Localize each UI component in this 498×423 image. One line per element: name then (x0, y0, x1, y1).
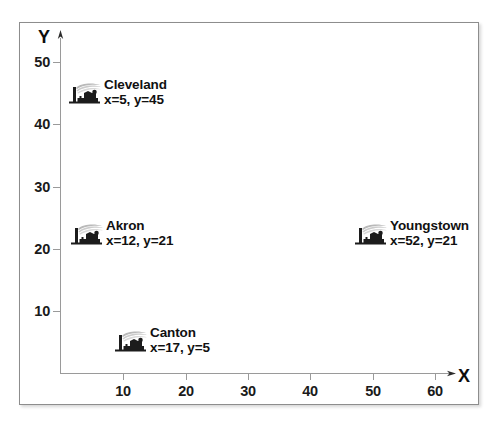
city-coords: x=52, y=21 (390, 233, 469, 248)
x-tick-label-30: 30 (231, 383, 265, 399)
y-axis-line (60, 38, 61, 373)
x-tick-label-20: 20 (169, 383, 203, 399)
x-tick-label-40: 40 (293, 383, 327, 399)
city-coords: x=12, y=21 (106, 233, 173, 248)
y-tick-10 (53, 311, 60, 312)
plot-area: 50 40 30 20 10 10 20 30 40 50 60 Y X (0, 0, 498, 423)
data-point-youngstown[interactable]: Youngstown x=52, y=21 (352, 221, 470, 255)
y-tick-label-20: 20 (20, 241, 50, 257)
x-tick-30 (248, 373, 249, 380)
x-tick-60 (435, 373, 436, 380)
x-tick-label-60: 60 (418, 383, 452, 399)
data-point-label-group: Canton x=17, y=5 (150, 325, 210, 355)
y-tick-20 (53, 249, 60, 250)
x-tick-label-10: 10 (106, 383, 140, 399)
x-axis-arrow-icon (443, 368, 456, 379)
factory-icon (112, 328, 148, 354)
city-name: Youngstown (390, 218, 469, 233)
data-point-label-group: Akron x=12, y=21 (106, 218, 173, 248)
factory-icon (68, 221, 104, 247)
x-tick-10 (123, 373, 124, 380)
x-tick-20 (186, 373, 187, 380)
city-coords: x=17, y=5 (150, 340, 210, 355)
factory-icon (352, 221, 388, 247)
data-point-label-group: Youngstown x=52, y=21 (390, 218, 469, 248)
y-tick-label-50: 50 (20, 54, 50, 70)
y-axis-arrow-icon (55, 30, 66, 42)
factory-icon (66, 80, 102, 106)
y-tick-50 (53, 62, 60, 63)
data-point-akron[interactable]: Akron x=12, y=21 (68, 221, 186, 255)
data-point-label-group: Cleveland x=5, y=45 (104, 77, 167, 107)
city-name: Akron (106, 218, 173, 233)
city-name: Canton (150, 325, 210, 340)
x-tick-50 (373, 373, 374, 380)
x-tick-label-50: 50 (356, 383, 390, 399)
city-name: Cleveland (104, 77, 167, 92)
y-axis-title: Y (38, 27, 50, 48)
x-axis-title: X (458, 366, 470, 387)
x-tick-40 (310, 373, 311, 380)
city-coords: x=5, y=45 (104, 92, 167, 107)
y-tick-40 (53, 124, 60, 125)
x-axis-line (60, 373, 450, 374)
y-tick-label-30: 30 (20, 179, 50, 195)
chart-figure: 50 40 30 20 10 10 20 30 40 50 60 Y X (0, 0, 498, 423)
y-tick-label-40: 40 (20, 116, 50, 132)
y-tick-30 (53, 187, 60, 188)
data-point-canton[interactable]: Canton x=17, y=5 (112, 328, 230, 362)
y-tick-label-10: 10 (20, 303, 50, 319)
data-point-cleveland[interactable]: Cleveland x=5, y=45 (66, 80, 184, 114)
